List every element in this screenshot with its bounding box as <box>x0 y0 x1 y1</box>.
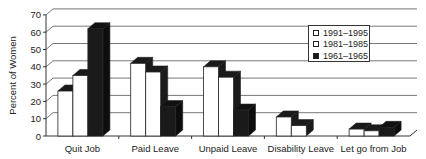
gridline-diagonal <box>46 78 53 84</box>
bar-1991–1995-Paid Leave <box>131 63 146 136</box>
bar-1991–1995-Disability Leave <box>276 117 291 136</box>
x-tick-label: Unpaid Leave <box>199 143 258 154</box>
gridline-diagonal <box>46 26 53 32</box>
legend-label: 1981–1985 <box>323 39 368 49</box>
bar-1981–1985-Disability Leave <box>291 126 306 136</box>
legend-swatch-white <box>313 41 319 47</box>
x-tick-label: Quit Job <box>65 143 100 154</box>
x-tick-label: Paid Leave <box>131 143 179 154</box>
bar-1961–1965-Unpaid Leave <box>234 110 249 136</box>
legend-label: 1961–1965 <box>323 51 368 61</box>
bar-1991–1995-Quit Job <box>58 91 73 136</box>
bar-1991–1995-Let go from Job <box>349 129 364 136</box>
y-tick-label: 70 <box>30 9 41 20</box>
bar-1981–1985-Paid Leave <box>146 72 161 136</box>
y-tick-label: 10 <box>30 113 41 124</box>
legend-swatch-black <box>313 53 319 59</box>
gridline-diagonal <box>46 95 53 101</box>
bar-1961–1965-Let go from Job <box>379 127 394 136</box>
gridline-diagonal <box>46 61 53 67</box>
y-tick-label: 0 <box>36 131 41 142</box>
legend-entry-1981-1985: 1981–1985 <box>313 39 369 51</box>
x-axis-depth <box>410 130 417 136</box>
y-tick-label: 30 <box>30 79 41 90</box>
x-tick-label: Disability Leave <box>268 143 335 154</box>
gridline-diagonal <box>46 113 53 119</box>
y-axis-title: Percent of Women <box>7 36 18 115</box>
legend-label: 1991–1995 <box>323 28 368 38</box>
chart-legend: 1991–1995 1981–1985 1961–1965 <box>308 25 370 62</box>
bar-1981–1985-Unpaid Leave <box>219 77 234 136</box>
bar-1981–1985-Let go from Job <box>364 131 379 136</box>
legend-swatch-white <box>313 30 319 36</box>
bar-1981–1985-Quit Job <box>73 75 88 136</box>
legend-entry-1991-1995: 1991–1995 <box>313 27 369 39</box>
bar-1961–1965-Paid Leave <box>161 107 176 136</box>
gridline-diagonal <box>46 9 53 15</box>
y-tick-label: 20 <box>30 96 41 107</box>
gridline-diagonal <box>46 44 53 50</box>
bar-1961–1965-Quit Job <box>88 29 103 136</box>
chart-plot-area: 010203040506070Percent of WomenQuit JobP… <box>0 0 426 159</box>
y-tick-label: 40 <box>30 61 41 72</box>
x-tick-label: Let go from Job <box>341 143 407 154</box>
y-tick-label: 60 <box>30 27 41 38</box>
y-tick-label: 50 <box>30 44 41 55</box>
bar-chart: 010203040506070Percent of WomenQuit JobP… <box>0 0 426 159</box>
bar-1991–1995-Unpaid Leave <box>204 67 219 136</box>
legend-entry-1961-1965: 1961–1965 <box>313 50 369 62</box>
bar-side-face <box>103 23 110 136</box>
